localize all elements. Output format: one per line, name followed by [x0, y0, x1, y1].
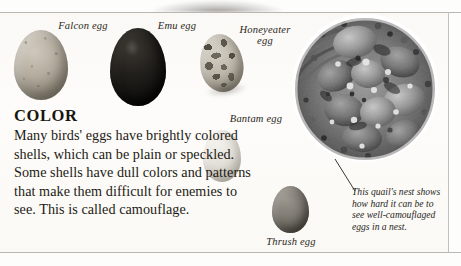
egg-label-thrush: Thrush egg [259, 236, 323, 247]
egg-label-bantam: Bantam egg [224, 113, 288, 124]
top-rule [0, 12, 461, 13]
egg-label-honeyeater: Honeyeater egg [236, 24, 294, 46]
egg-falcon-speckles [14, 30, 68, 100]
section-body-text: Many birds' eggs have brightly colored s… [14, 126, 254, 219]
section-heading-color: COLOR [14, 106, 78, 126]
bottom-rule [0, 252, 461, 253]
right-rule [448, 12, 449, 252]
page-top-smudge [150, 0, 285, 12]
page-spread: Falcon egg Emu egg Honeyeater egg Bantam… [0, 0, 461, 266]
egg-emu-highlight [125, 39, 140, 56]
egg-falcon [14, 30, 68, 100]
egg-label-emu: Emu egg [148, 20, 206, 31]
nest-caption: This quail's nest shows how hard it can … [352, 186, 444, 232]
quail-nest-photo [292, 14, 438, 162]
egg-emu [110, 28, 166, 106]
egg-label-falcon: Falcon egg [52, 20, 114, 31]
egg-thrush [272, 186, 309, 233]
